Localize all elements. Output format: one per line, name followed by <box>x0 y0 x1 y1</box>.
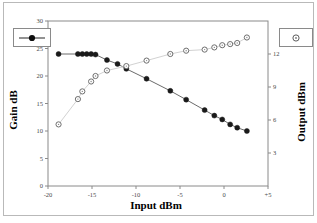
y-axis-left-tick-label: 15 <box>37 100 44 107</box>
y-axis-right-tick-label: 9 <box>273 83 276 90</box>
y-axis-right-title: Output dBm <box>295 74 307 150</box>
data-point-center <box>246 37 247 38</box>
data-point <box>228 122 233 127</box>
data-point-center <box>90 81 91 82</box>
series-line <box>59 38 247 125</box>
x-axis-tick-label: +5 <box>265 191 272 198</box>
legend-output[interactable] <box>279 28 313 47</box>
data-point-center <box>214 47 215 48</box>
chart-figure: 05101520253036912-20-15-10-50+5 Gain dB … <box>0 0 317 223</box>
data-point-center <box>170 53 171 54</box>
data-point-center <box>77 98 78 99</box>
y-axis-right-tick-label: 3 <box>273 149 276 156</box>
y-axis-left-tick-label: 20 <box>37 72 44 79</box>
plot-frame <box>48 21 268 186</box>
data-point <box>212 113 217 118</box>
y-axis-right-tick-label: 12 <box>273 50 280 57</box>
data-point-center <box>237 42 238 43</box>
legend-gain-marker <box>14 29 50 46</box>
data-point <box>115 61 120 66</box>
series-line <box>59 54 247 131</box>
data-point <box>144 76 149 81</box>
y-axis-right-tick-label: 6 <box>273 116 277 123</box>
x-axis-tick-label: -20 <box>44 191 53 198</box>
x-axis-tick-label: -10 <box>132 191 141 198</box>
data-point-center <box>204 49 205 50</box>
data-point-center <box>126 65 127 66</box>
y-axis-left-title: Gain dB <box>7 81 19 139</box>
data-point <box>56 52 61 57</box>
x-axis-tick-label: -5 <box>177 191 182 198</box>
data-point-center <box>95 75 96 76</box>
filled-circle-with-line-icon <box>17 32 47 44</box>
x-axis-tick-label: -15 <box>88 191 97 198</box>
legend-gain[interactable] <box>13 28 51 47</box>
data-point-center <box>229 43 230 44</box>
y-axis-left-tick-label: 0 <box>40 182 43 189</box>
data-point <box>244 129 249 134</box>
data-point-center <box>82 91 83 92</box>
data-point-center <box>222 45 223 46</box>
y-axis-left-tick-label: 5 <box>40 155 43 162</box>
open-circle-icon <box>289 32 303 44</box>
data-point <box>202 108 207 113</box>
data-point <box>104 58 109 63</box>
data-point-center <box>146 60 147 61</box>
x-axis-tick-label: 0 <box>222 191 225 198</box>
y-axis-left-tick-label: 30 <box>37 17 44 24</box>
data-point-center <box>185 50 186 51</box>
data-point-center <box>58 124 59 125</box>
y-axis-left-tick-label: 10 <box>37 127 44 134</box>
data-point <box>235 125 240 130</box>
data-point-center <box>106 70 107 71</box>
legend-output-marker <box>280 29 312 46</box>
data-point <box>93 52 98 57</box>
data-point <box>184 97 189 102</box>
data-point <box>168 88 173 93</box>
data-point <box>220 117 225 122</box>
x-axis-title: Input dBm <box>96 199 216 211</box>
